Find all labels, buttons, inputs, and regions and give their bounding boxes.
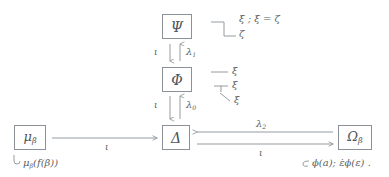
arrow-label-lambda-1: λ1 (186, 47, 196, 58)
annotation-upper-tree-line-2: ζ (239, 29, 244, 40)
arrow-label-iota-delta-omega: ι (259, 149, 263, 158)
arrow-label-iota-phi-delta: ι (154, 101, 158, 110)
lambda-2-subscript: 2 (262, 123, 266, 130)
bottom-left-hook-icon (14, 155, 20, 164)
annotation-mid-tree-line-2: ξ (232, 80, 238, 91)
mid-tree-stroke-tee (214, 86, 228, 92)
upper-tree-bracket (211, 22, 236, 36)
annotation-bottom-left-formula: μβ(f(β)) (23, 158, 58, 169)
annotation-mid-tree-line-3: ξ (234, 95, 240, 106)
bottom-left-formula-rest: (f(β)) (33, 157, 58, 168)
annotation-upper-tree-line-1: ξ ; ξ = ζ (239, 14, 280, 25)
arrow-label-lambda-0: λ0 (186, 100, 196, 111)
diagram-canvas: Ψ Φ Δ μβ Ωβ (0, 0, 389, 177)
diagram-arrows-layer (0, 0, 389, 177)
arrow-label-lambda-2: λ2 (256, 119, 266, 130)
annotation-mid-tree-line-1: ξ (232, 66, 238, 77)
bottom-right-hook-icon (303, 161, 309, 166)
mid-tree-stroke-diagonal (220, 93, 230, 101)
arrow-label-iota-mu-delta: ι (105, 143, 109, 152)
annotation-bottom-right-formula: ϕ(a); ε̇ϕ(ε) . (312, 158, 371, 169)
lambda-0-subscript: 0 (192, 104, 196, 111)
arrow-label-iota-psi-phi: ι (154, 48, 158, 57)
lambda-1-subscript: 1 (192, 51, 196, 58)
